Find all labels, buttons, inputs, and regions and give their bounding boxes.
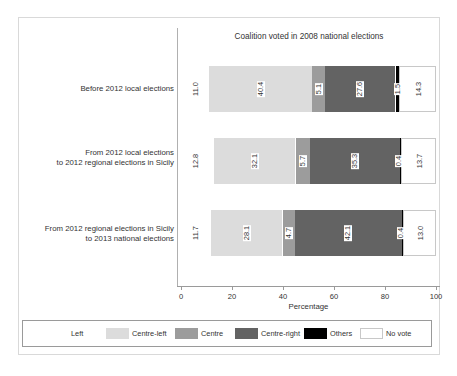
plot-left-spine [177,28,178,286]
bar-2-value-centre-right: 35.3 [351,153,359,169]
bar-3-value-centre-right: 42.1 [344,225,352,241]
legend-item-centre-left[interactable]: Centre-left [106,321,167,346]
legend-label-others: Others [330,329,352,338]
category-label-2: From 2012 local elections to 2012 region… [57,148,174,167]
bar-1-value-centre-right: 27.6 [356,81,364,97]
bar-3-value-left: 11.7 [191,226,200,240]
centre-swatch-icon [175,328,198,339]
legend-item-others[interactable]: Others [304,321,352,346]
category-label-1: Before 2012 local elections [80,84,174,94]
legend-item-left[interactable]: Left [45,321,83,346]
no-vote-swatch-icon [360,328,383,339]
category-label-2-line-1: From 2012 local elections [57,148,174,158]
x-tick-60 [334,286,335,290]
centre-right-swatch-icon [235,328,258,339]
x-tick-80 [385,286,386,290]
x-tick-label-20: 20 [228,292,236,301]
category-label-3: From 2012 regional elections in Sicily t… [45,224,174,243]
legend-label-centre: Centre [201,329,223,338]
bar-3-value-centre: 4.7 [285,227,293,239]
bar-2-value-no-vote: 13.7 [414,154,423,168]
x-tick-0 [181,286,182,290]
centre-left-swatch-icon [106,328,129,339]
legend-item-centre[interactable]: Centre [175,321,223,346]
bar-2-value-centre-left: 32.1 [251,153,259,169]
legend-item-no-vote[interactable]: No vote [360,321,411,346]
bar-2-value-others: 0.4 [395,155,403,167]
bar-1-value-no-vote: 14.3 [413,82,422,96]
legend-label-centre-left: Centre-left [132,329,167,338]
bar-1-value-left: 11.0 [191,82,200,96]
bar-2-value-centre: 5.7 [299,155,307,167]
x-tick-label-80: 80 [381,292,389,301]
chart-title: Coalition voted in 2008 national electio… [178,32,440,41]
legend-label-left: Left [71,329,83,338]
others-swatch-icon [304,328,327,339]
x-tick-label-100: 100 [430,292,443,301]
bar-3-value-others: 0.4 [397,227,405,239]
category-label-2-line-2: to 2012 regional elections in Sicily [57,158,174,168]
chart-legend: Left Centre-left Centre Centre-right Oth… [22,320,432,347]
category-label-1-line-1: Before 2012 local elections [80,84,174,94]
legend-item-centre-right[interactable]: Centre-right [235,321,300,346]
x-axis-title: Percentage [177,302,440,311]
category-label-3-line-2: to 2013 national elections [45,234,174,244]
x-axis-line [177,286,440,287]
x-tick-label-0: 0 [179,292,183,301]
bar-3-value-no-vote: 13.0 [415,226,424,240]
bar-3-value-centre-left: 28.1 [243,225,251,241]
x-tick-20 [232,286,233,290]
x-tick-label-40: 40 [279,292,287,301]
bar-1-value-centre-left: 40.4 [257,81,265,97]
x-tick-40 [283,286,284,290]
legend-label-centre-right: Centre-right [261,329,300,338]
category-label-3-line-1: From 2012 regional elections in Sicily [45,224,174,234]
left-swatch-icon [45,328,68,339]
chart-figure: Coalition voted in 2008 national electio… [0,0,457,376]
x-tick-label-60: 60 [330,292,338,301]
bar-1-value-centre: 5.1 [315,83,323,95]
x-tick-100 [436,286,437,290]
legend-label-no-vote: No vote [386,329,411,338]
bar-2-value-left: 12.8 [191,154,200,168]
bar-1-value-others: 1.5 [394,83,402,95]
